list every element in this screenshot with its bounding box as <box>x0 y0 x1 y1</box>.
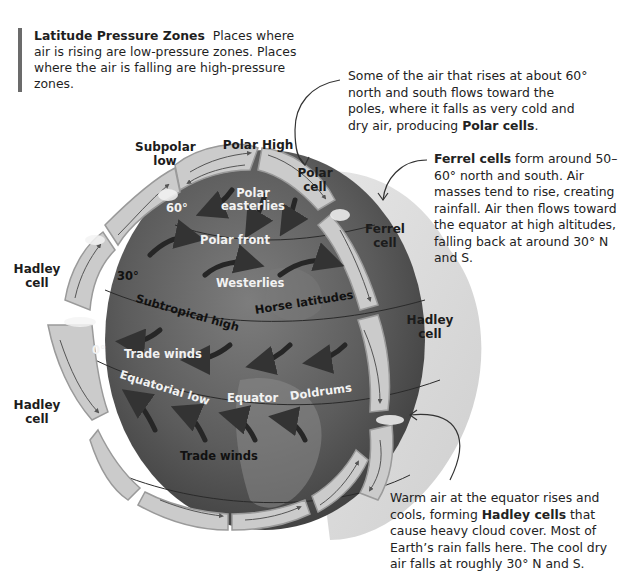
polar-cell-note: Some of the air that rises at about 60° … <box>348 68 588 134</box>
label-equator: Equator <box>227 392 278 405</box>
label-trade-winds-north: Trade winds <box>124 348 202 361</box>
label-hadley-cell-right: Hadleycell <box>405 313 455 341</box>
label-polar-high: Polar High <box>218 138 298 152</box>
label-polar-cell: Polarcell <box>290 166 340 194</box>
label-lat-60: 60° <box>166 202 188 215</box>
label-hadley-cell-left-top: Hadleycell <box>12 262 62 290</box>
label-hadley-cell-left-bottom: Hadleycell <box>12 398 62 426</box>
ferrel-cell-note: Ferrel cells form around 50–60° north an… <box>434 151 620 267</box>
label-westerlies: Westerlies <box>216 277 284 290</box>
label-subpolar-low: Subpolarlow <box>135 140 195 168</box>
polar-note-leader <box>295 80 340 165</box>
label-trade-winds-south: Trade winds <box>180 450 258 463</box>
label-ferrel-cell: Ferrelcell <box>360 222 410 250</box>
label-polar-easterlies: Polareasterlies <box>218 187 288 213</box>
hadley-cell-note: Warm air at the equator rises and cools,… <box>390 490 620 573</box>
label-lat-0: 0° <box>92 344 106 357</box>
label-lat-30: 30° <box>117 270 139 283</box>
label-polar-front: Polar front <box>200 234 270 247</box>
